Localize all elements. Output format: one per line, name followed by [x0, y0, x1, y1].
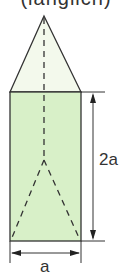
height-label: 2a: [99, 150, 118, 170]
body-rectangle: [10, 92, 81, 241]
arrow-up-icon: [90, 93, 96, 103]
width-label: a: [40, 257, 49, 276]
arrow-left-icon: [11, 250, 21, 256]
arrow-right-icon: [70, 250, 80, 256]
arrow-down-icon: [90, 230, 96, 240]
roof-triangle: [10, 16, 81, 92]
